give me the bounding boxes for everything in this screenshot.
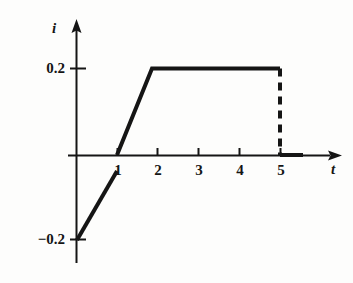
x-tick-label-5: 5 [269, 162, 293, 179]
waveform-negative-ramp [77, 171, 117, 240]
x-axis-label: t [331, 161, 335, 178]
y-tick-marks [70, 69, 86, 240]
waveform-main [117, 69, 280, 156]
y-tick-label-neg-0-2: −0.2 [8, 231, 65, 248]
y-tick-label-0-2: 0.2 [15, 60, 65, 77]
current-vs-time-plot: i t 0.2 −0.2 1 2 3 4 5 [0, 0, 353, 283]
x-tick-label-4: 4 [228, 162, 252, 179]
y-axis-label: i [52, 20, 56, 37]
x-tick-label-3: 3 [187, 162, 211, 179]
y-axis [72, 19, 82, 263]
x-tick-label-1: 1 [106, 162, 130, 179]
x-tick-label-2: 2 [146, 162, 170, 179]
